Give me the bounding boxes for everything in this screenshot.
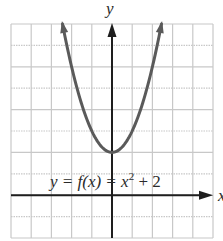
equation-label: y = f(x) = x2 + 2: [48, 170, 161, 191]
x-axis-arrow-icon: [199, 191, 213, 200]
equation-rhs: + 2: [134, 172, 161, 191]
y-axis-label: y: [104, 0, 114, 18]
equation-lhs: y = f(x) = x: [48, 172, 129, 191]
x-axis-label: x: [217, 186, 223, 205]
y-axis-arrow-icon: [108, 23, 117, 37]
function-graph: y x y = f(x) = x2 + 2: [0, 0, 223, 241]
